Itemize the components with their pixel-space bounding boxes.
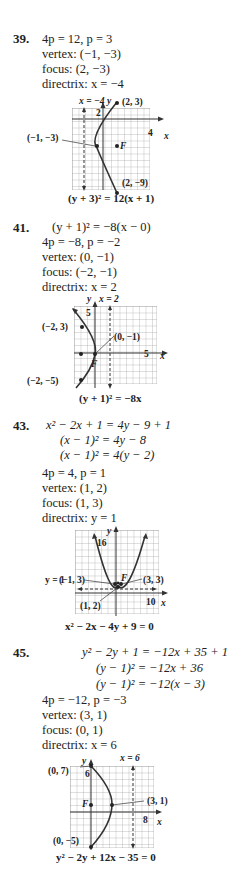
y-axis-label: y (107, 96, 111, 106)
point-label: (−2, 3) (42, 322, 68, 332)
point-label: (2, −9) (122, 178, 148, 188)
directrix-label: x = 2 (99, 294, 119, 304)
solution-line: (y + 1)² = −8(x − 0) (52, 220, 151, 234)
y-axis-label: y (87, 294, 91, 304)
y-axis-label: y (107, 526, 111, 536)
point-label: (0, 7) (48, 766, 69, 776)
solution-line: 4p = 12, p = 3 (42, 32, 112, 46)
x-tick-label: 10 (146, 597, 156, 607)
graph-equation: x² − 2x − 4y + 9 = 0 (65, 620, 154, 632)
vertex-line: vertex: (1, 2) (42, 481, 107, 495)
graph-equation: (y + 1)² = −8x (79, 392, 141, 404)
x-axis-label: x (160, 351, 165, 361)
problem-number: 39. (13, 31, 29, 47)
solution-line: (x − 1)² = 4(y − 2) (60, 448, 154, 462)
directrix-line: directrix: x = −4 (42, 77, 124, 91)
solution-line: 4p = 4, p = 1 (42, 466, 106, 480)
point-label: (−1, 3) (59, 575, 85, 585)
directrix-label: x = −4 (79, 96, 104, 106)
focus-line: focus: (0, 1) (42, 723, 103, 737)
focus-label: F (82, 799, 88, 809)
solution-line: 4p = −8, p = −2 (42, 235, 120, 249)
x-tick-label: 8 (143, 815, 148, 825)
y-axis-label: y (82, 756, 86, 766)
point-label: (0, −5) (53, 836, 79, 846)
point-label: (2, 3) (122, 97, 143, 107)
parabola-plot-39 (60, 100, 170, 195)
vertex-line: vertex: (−1, −3) (42, 47, 121, 61)
x-axis-label: x (157, 817, 162, 827)
focus-line: focus: (2, −3) (42, 62, 110, 76)
y-tick-label: 2 (96, 108, 101, 118)
y-tick-label: 5 (86, 308, 91, 318)
solution-line: (y − 1)² = −12(x − 3) (96, 677, 205, 691)
x-tick-label: 5 (144, 349, 149, 359)
focus-label: F (121, 573, 127, 583)
vertex-point-label: (0, −1) (114, 332, 140, 342)
solution-line: y² − 2y + 1 = −12x + 35 + 1 (82, 645, 227, 659)
directrix-line: directrix: x = 6 (42, 738, 117, 752)
directrix-line: directrix: y = 1 (42, 511, 117, 525)
directrix-label: x = 6 (120, 753, 140, 763)
focus-label: F (91, 359, 97, 369)
focus-label: F (120, 141, 126, 151)
directrix-line: directrix: x = 2 (42, 280, 117, 294)
y-tick-label: 16 (97, 538, 107, 548)
solution-line: 4p = −12, p = −3 (42, 693, 126, 707)
solution-line: x² − 2x + 1 = 4y − 9 + 1 (46, 418, 171, 432)
graph-equation: (y + 3)² = 12(x + 1) (68, 192, 154, 204)
vertex-point-label: (1, 2) (80, 601, 101, 611)
vertex-line: vertex: (0, −1) (42, 250, 114, 264)
problem-number: 45. (13, 645, 29, 661)
point-label: (3, 3) (143, 575, 164, 585)
x-axis-label: x (161, 598, 166, 608)
solution-line: (y − 1)² = −12x + 36 (96, 661, 203, 675)
x-tick-label: 4 (148, 128, 153, 138)
focus-line: focus: (−2, −1) (42, 265, 117, 279)
x-axis-label: x (164, 131, 169, 141)
vertex-point-label: (3, 1) (147, 796, 168, 806)
point-label: (−2, −5) (27, 376, 58, 386)
solution-line: (x − 1)² = 4y − 8 (60, 433, 146, 447)
vertex-line: vertex: (3, 1) (42, 708, 107, 722)
problem-number: 43. (13, 418, 29, 434)
y-tick-label: 6 (85, 769, 90, 779)
vertex-point-label: (−1, −3) (27, 133, 58, 143)
graph-equation: y² − 2y + 12x − 35 = 0 (56, 851, 156, 863)
parabola-plot-41 (70, 300, 170, 390)
problem-number: 41. (13, 220, 29, 236)
focus-line: focus: (1, 3) (42, 496, 103, 510)
